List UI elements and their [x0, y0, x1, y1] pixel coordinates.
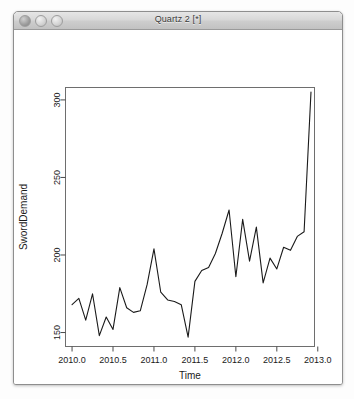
time-series-plot: 150200250300 2010.02010.52011.02011.5201…: [14, 30, 342, 384]
plot-canvas: 150200250300 2010.02010.52011.02011.5201…: [14, 30, 342, 384]
series-line: [72, 92, 311, 337]
window-titlebar[interactable]: Quartz 2 [*]: [14, 12, 342, 30]
y-tick-label: 250: [52, 170, 62, 185]
y-axis-label: SwordDemand: [18, 184, 29, 250]
window-title: Quartz 2 [*]: [14, 14, 342, 24]
screen: Quartz 2 [*] 150200250300 2010.02010.520…: [0, 0, 354, 399]
plot-frame: [66, 88, 315, 347]
y-tick-label: 150: [52, 325, 62, 340]
x-tick-label: 2011.5: [181, 355, 208, 365]
x-tick-label: 2010.0: [58, 355, 86, 365]
x-axis-ticks: 2010.02010.52011.02011.52012.02012.52013…: [58, 347, 331, 365]
quartz-window: Quartz 2 [*] 150200250300 2010.02010.520…: [13, 11, 343, 385]
x-axis-label: Time: [179, 370, 201, 381]
x-tick-label: 2011.0: [141, 355, 168, 365]
y-tick-label: 200: [52, 247, 62, 262]
x-tick-label: 2012.5: [263, 355, 291, 365]
y-axis-ticks: 150200250300: [52, 92, 66, 340]
series-group: [72, 92, 311, 337]
x-tick-label: 2013.0: [304, 355, 332, 365]
x-tick-label: 2010.5: [99, 355, 127, 365]
x-tick-label: 2012.0: [222, 355, 250, 365]
y-tick-label: 300: [52, 92, 62, 107]
